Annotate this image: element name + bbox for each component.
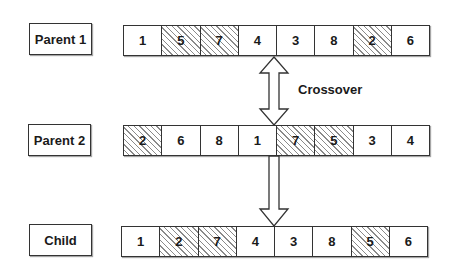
gene-cell: 2 xyxy=(160,227,198,256)
gene-value: 5 xyxy=(367,234,374,249)
gene-value: 4 xyxy=(254,33,261,48)
gene-value: 1 xyxy=(137,234,144,249)
gene-value: 8 xyxy=(216,133,223,148)
gene-value: 7 xyxy=(216,33,223,48)
gene-cell: 5 xyxy=(352,227,390,256)
crossover-label: Crossover xyxy=(298,82,362,97)
gene-value: 1 xyxy=(254,133,261,148)
gene-cell: 2 xyxy=(124,126,162,155)
gene-cell: 1 xyxy=(239,126,277,155)
gene-cell: 5 xyxy=(315,126,353,155)
gene-cell: 7 xyxy=(201,26,239,55)
parent-1-label: Parent 1 xyxy=(29,23,92,55)
parent-1-chromosome: 1 5 7 4 3 8 2 6 xyxy=(123,25,430,56)
gene-value: 3 xyxy=(369,133,376,148)
double-arrow-icon xyxy=(258,56,290,126)
parent-2-label: Parent 2 xyxy=(28,124,91,156)
gene-cell: 4 xyxy=(239,26,277,55)
gene-cell: 3 xyxy=(275,227,313,256)
gene-cell: 1 xyxy=(124,26,162,55)
gene-value: 5 xyxy=(330,133,337,148)
gene-cell: 8 xyxy=(201,126,239,155)
gene-cell: 4 xyxy=(237,227,275,256)
gene-value: 8 xyxy=(328,234,335,249)
parent-2-chromosome: 2 6 8 1 7 5 3 4 xyxy=(123,125,430,156)
gene-cell: 8 xyxy=(313,227,351,256)
gene-value: 5 xyxy=(177,33,184,48)
gene-value: 7 xyxy=(292,133,299,148)
gene-value: 2 xyxy=(139,133,146,148)
down-arrow-icon xyxy=(258,155,290,227)
gene-value: 6 xyxy=(407,33,414,48)
child-label: Child xyxy=(29,224,92,256)
child-chromosome: 1 2 7 4 3 8 5 6 xyxy=(121,226,428,257)
gene-cell: 1 xyxy=(122,227,160,256)
gene-cell: 3 xyxy=(277,26,315,55)
gene-value: 8 xyxy=(330,33,337,48)
gene-cell: 8 xyxy=(315,26,353,55)
gene-cell: 7 xyxy=(199,227,237,256)
gene-value: 3 xyxy=(290,234,297,249)
gene-cell: 6 xyxy=(162,126,200,155)
gene-cell: 3 xyxy=(354,126,392,155)
gene-value: 1 xyxy=(139,33,146,48)
gene-value: 2 xyxy=(369,33,376,48)
gene-value: 7 xyxy=(214,234,221,249)
gene-cell: 4 xyxy=(392,126,429,155)
gene-value: 6 xyxy=(405,234,412,249)
gene-cell: 6 xyxy=(392,26,429,55)
gene-value: 4 xyxy=(252,234,259,249)
gene-value: 4 xyxy=(407,133,414,148)
gene-cell: 7 xyxy=(277,126,315,155)
gene-value: 2 xyxy=(175,234,182,249)
gene-cell: 6 xyxy=(390,227,427,256)
gene-value: 3 xyxy=(292,33,299,48)
gene-value: 6 xyxy=(177,133,184,148)
gene-cell: 2 xyxy=(354,26,392,55)
gene-cell: 5 xyxy=(162,26,200,55)
